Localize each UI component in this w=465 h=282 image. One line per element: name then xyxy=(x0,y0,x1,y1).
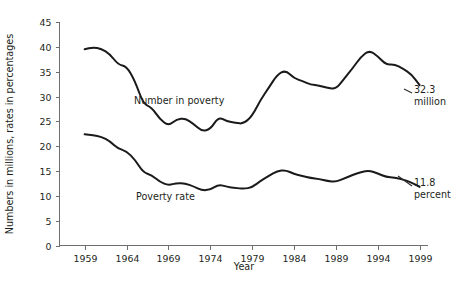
endpoint-value-poverty-rate: 11.8 xyxy=(414,177,435,188)
x-tick-label-1999: 1999 xyxy=(409,253,433,264)
endpoint-value-number-in-poverty: 32.3 xyxy=(414,84,435,95)
y-tick-label-30: 30 xyxy=(40,92,52,103)
x-tick-label-1989: 1989 xyxy=(325,253,349,264)
y-tick-label-0: 0 xyxy=(46,241,52,252)
x-tick-label-1969: 1969 xyxy=(157,253,181,264)
series-label-number-in-poverty: Number in poverty xyxy=(134,95,225,106)
x-tick-label-1959: 1959 xyxy=(74,253,98,264)
x-tick-label-1964: 1964 xyxy=(116,253,140,264)
x-tick-label-1994: 1994 xyxy=(367,253,391,264)
y-tick-label-45: 45 xyxy=(40,17,52,28)
poverty-chart: 051015202530354045 195919641969197419791… xyxy=(0,0,465,282)
x-tick-label-1974: 1974 xyxy=(199,253,223,264)
y-tick-label-25: 25 xyxy=(40,116,52,127)
y-tick-label-15: 15 xyxy=(40,166,52,177)
x-axis-title: Year xyxy=(233,261,254,272)
y-axis-title: Numbers in millions, rates in percentage… xyxy=(4,34,15,234)
series-label-poverty-rate: Poverty rate xyxy=(136,191,195,202)
y-tick-label-20: 20 xyxy=(40,141,52,152)
chart-canvas: 051015202530354045 195919641969197419791… xyxy=(0,0,465,282)
y-tick-label-10: 10 xyxy=(40,191,52,202)
x-tick-label-1984: 1984 xyxy=(283,253,307,264)
y-tick-label-5: 5 xyxy=(46,216,52,227)
plot-background xyxy=(0,0,465,282)
y-tick-label-35: 35 xyxy=(40,67,52,78)
y-tick-label-40: 40 xyxy=(40,42,52,53)
endpoint-unit-poverty-rate: percent xyxy=(414,189,451,200)
endpoint-unit-number-in-poverty: million xyxy=(414,96,446,107)
